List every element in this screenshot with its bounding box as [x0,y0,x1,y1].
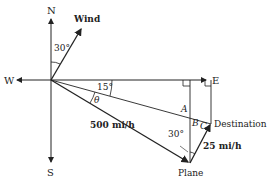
vector-diagram: N S W E Wind 30° 15° θ 500 mi/h A B C De… [0,0,268,182]
label-point-B: B [191,118,199,128]
destination-line [51,80,211,124]
right-angle-marker-2 [205,80,211,86]
label-plane: Plane [178,168,203,178]
label-wind: Wind [73,14,101,24]
label-south: S [47,167,54,178]
label-wind-angle: 30° [54,43,70,53]
plane-angle-arc [190,152,195,154]
label-destination: Destination [214,119,267,129]
label-east-angle: 15° [97,82,113,92]
label-north: N [47,5,56,16]
plane-angle-leader [180,146,188,152]
wind-vector [51,29,81,80]
right-angle-marker-1 [183,80,190,86]
label-point-C: C [200,121,207,131]
label-plane-angle: 30° [168,129,184,139]
wind-angle-arc [51,62,60,64]
diagram-canvas: N S W E Wind 30° 15° θ 500 mi/h A B C De… [0,0,268,182]
label-plane-speed: 500 mi/h [90,120,135,130]
label-wind-component: 25 mi/h [203,141,242,151]
label-east: E [212,75,219,86]
label-west: W [4,75,15,86]
label-theta: θ [94,95,100,105]
label-point-A: A [180,104,188,114]
